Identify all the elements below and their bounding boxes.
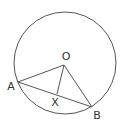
segment-oa — [18, 65, 64, 82]
label-b: B — [93, 109, 101, 122]
label-a: A — [7, 80, 15, 93]
circle — [14, 12, 116, 114]
label-o: O — [62, 50, 71, 63]
label-x: X — [51, 96, 59, 109]
segment-ob — [64, 65, 92, 107]
circle-geometry-diagram: O A B X — [0, 0, 122, 129]
segment-ox — [57, 65, 64, 94]
